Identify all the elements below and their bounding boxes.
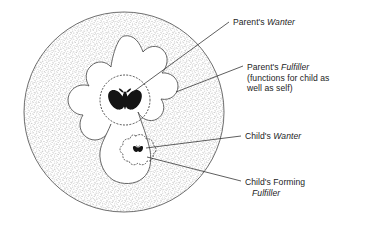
label-childs-wanter-italic: Wanter [273,131,301,141]
label-childs-wanter: Child's Wanter [245,131,301,142]
label-childs-wanter-line1: Child's Wanter [245,131,301,142]
label-childs-forming-fulfiller: Child's Forming Fulfiller [245,177,305,198]
label-childs-forming-fulfiller-line2: Fulfiller [245,188,305,199]
label-parents-wanter-line1: Parent's Wanter [233,17,295,28]
label-parents-fulfiller-line2: (functions for child as [247,73,329,84]
label-parents-fulfiller-line1: Parent's Fulfiller [247,62,329,73]
diagram-canvas: Parent's Wanter Parent's Fulfiller (func… [0,0,378,225]
label-childs-wanter-plain: Child's [245,131,273,141]
diagram-illustration [0,0,378,225]
label-parents-wanter: Parent's Wanter [233,17,295,28]
parents-wanter-butterfly [108,88,142,109]
label-parents-fulfiller-italic: Fulfiller [281,62,309,72]
label-parents-wanter-italic: Wanter [267,17,295,27]
label-parents-wanter-plain: Parent's [233,17,267,27]
label-childs-forming-fulfiller-line1: Child's Forming [245,177,305,188]
label-parents-fulfiller: Parent's Fulfiller (functions for child … [247,62,329,94]
label-parents-fulfiller-line3: well as self) [247,83,329,94]
label-parents-fulfiller-plain: Parent's [247,62,281,72]
